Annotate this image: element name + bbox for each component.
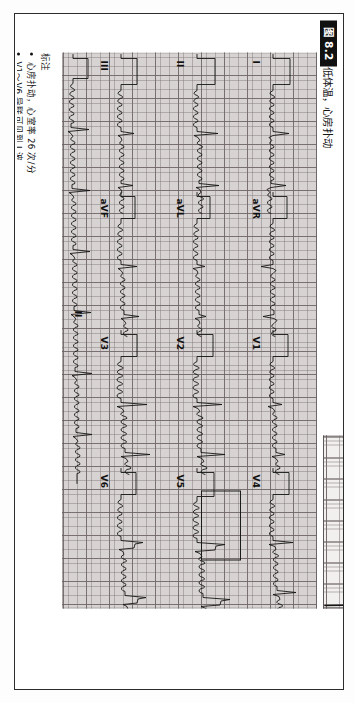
inset-magnified-strip	[323, 435, 343, 608]
ecg-traces	[62, 52, 317, 608]
figure-number-badge: 图 8.2	[321, 20, 338, 66]
legend-list: 心房扑动，心室率 26 次/分 V1～V6 导联可见到 J 波	[17, 52, 37, 482]
rhythm-strip-label: II	[73, 310, 83, 317]
lead-label-V6: V6	[99, 474, 109, 488]
legend-item: V1～V6 导联可见到 J 波	[17, 52, 24, 482]
legend-header: 标注	[38, 52, 51, 482]
inset-trace	[324, 436, 343, 607]
lead-label-aVL: aVL	[175, 198, 185, 217]
page-background: 图 8.2 低体温，心房扑动	[0, 0, 355, 703]
lead-label-V3: V3	[99, 336, 109, 350]
lead-label-aVF: aVF	[99, 198, 109, 218]
lead-label-I: I	[251, 60, 261, 64]
lead-label-III: III	[99, 60, 109, 71]
ecg-grid-panel: I II III aVR aVL aVF V1 V2 V3 V4 V5 V6 I…	[62, 52, 317, 608]
v5-highlight-box	[201, 490, 241, 560]
lead-label-V4: V4	[251, 474, 261, 488]
lead-label-V5: V5	[175, 474, 185, 488]
figure-canvas: 图 8.2 低体温，心房扑动	[17, 16, 343, 687]
lead-label-V2: V2	[175, 336, 185, 350]
lead-label-aVR: aVR	[251, 198, 261, 219]
lead-label-V1: V1	[251, 336, 261, 350]
lead-label-II: II	[175, 60, 185, 67]
figure-title: 低体温，心房扑动	[321, 66, 336, 148]
legend-item: 心房扑动，心室率 26 次/分	[24, 52, 37, 482]
legend-block: 标注 心房扑动，心室率 26 次/分 V1～V6 导联可见到 J 波	[17, 52, 51, 482]
rotated-figure-stage: 图 8.2 低体温，心房扑动	[17, 16, 343, 687]
